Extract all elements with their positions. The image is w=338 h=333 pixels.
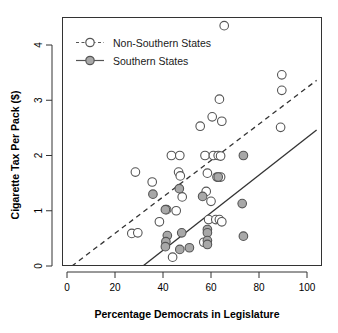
- y-axis-ticks: [46, 45, 52, 266]
- y-tick-label: 2: [33, 152, 44, 158]
- y-tick-label: 0: [33, 263, 44, 269]
- y-tick-label: 3: [33, 97, 44, 103]
- x-axis-title: Percentage Democrats in Legislature: [95, 308, 280, 320]
- x-axis-ticks: [67, 272, 307, 278]
- scatter-plot-canvas: 020406080100 01234 Non-Southern States S…: [0, 0, 338, 333]
- y-tick-label: 4: [33, 42, 44, 48]
- data-point: [149, 190, 158, 199]
- data-point: [178, 193, 187, 202]
- data-point: [203, 240, 212, 249]
- x-tick-label: 100: [299, 282, 316, 293]
- legend-label-non-southern: Non-Southern States: [113, 37, 211, 49]
- y-tick-label: 1: [33, 208, 44, 214]
- data-point: [161, 242, 170, 251]
- data-point: [185, 243, 194, 252]
- data-point: [175, 184, 184, 193]
- data-point: [278, 71, 287, 80]
- legend-marker-non-southern: [86, 38, 94, 46]
- x-tick-label: 40: [157, 282, 169, 293]
- data-point: [176, 245, 185, 254]
- data-point: [176, 172, 185, 181]
- y-axis-tick-labels: 01234: [33, 42, 44, 269]
- legend-label-southern: Southern States: [113, 55, 188, 67]
- cigarette-tax-scatter-figure: 020406080100 01234 Non-Southern States S…: [0, 0, 338, 333]
- x-tick-label: 80: [253, 282, 265, 293]
- data-point: [278, 86, 287, 95]
- data-point: [207, 197, 216, 206]
- data-point: [161, 205, 170, 214]
- data-point: [198, 192, 207, 201]
- data-point: [201, 151, 210, 160]
- data-point: [218, 218, 227, 227]
- data-point: [203, 169, 212, 178]
- data-point: [168, 253, 177, 262]
- legend-marker-southern: [86, 56, 94, 64]
- data-point: [220, 21, 229, 30]
- data-point: [215, 95, 224, 104]
- data-point: [218, 117, 227, 126]
- data-point: [239, 232, 248, 241]
- data-point: [167, 151, 176, 160]
- x-tick-label: 0: [64, 282, 70, 293]
- data-point: [214, 173, 223, 182]
- data-point: [238, 199, 247, 208]
- x-axis-tick-labels: 020406080100: [64, 282, 316, 293]
- data-point: [276, 123, 285, 132]
- data-point: [177, 229, 186, 238]
- data-point: [176, 151, 185, 160]
- x-tick-label: 20: [109, 282, 121, 293]
- x-tick-label: 60: [205, 282, 217, 293]
- data-point: [208, 113, 217, 122]
- data-point: [172, 206, 181, 215]
- data-point: [155, 218, 164, 227]
- y-axis-title: Cigarette Tax Per Pack ($): [9, 91, 21, 220]
- data-point: [196, 122, 205, 131]
- data-point: [131, 168, 140, 177]
- data-point: [134, 229, 143, 238]
- data-point: [216, 152, 225, 161]
- data-point: [239, 151, 248, 160]
- data-point: [148, 178, 157, 187]
